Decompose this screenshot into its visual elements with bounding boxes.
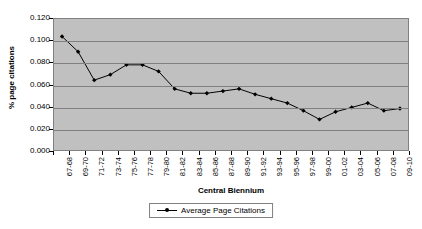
gridline (54, 130, 408, 131)
y-axis-tick-mark (49, 18, 53, 19)
legend-marker-icon (157, 207, 177, 215)
data-point-marker (382, 109, 386, 113)
x-axis-tick-mark (199, 151, 200, 155)
data-point-marker (301, 109, 305, 113)
x-axis-tick-mark (182, 151, 183, 155)
x-axis-tick-mark (360, 151, 361, 155)
y-axis-tick-mark (49, 129, 53, 130)
y-axis-tick-label: 0.120 (22, 14, 50, 22)
y-axis-tick-mark (49, 40, 53, 41)
chart-legend: Average Page Citations (149, 203, 273, 218)
y-axis-tick-mark (49, 62, 53, 63)
x-axis-tick-mark (328, 151, 329, 155)
data-point-marker (108, 73, 112, 77)
x-axis-tick-mark (53, 151, 54, 155)
y-axis-tick-labels: 0.0000.0200.0400.0600.0800.1000.120 (20, 0, 50, 155)
x-axis-tick-mark (69, 151, 70, 155)
x-axis-tick-mark (312, 151, 313, 155)
data-point-marker (92, 78, 96, 82)
data-point-marker (285, 101, 289, 105)
y-axis-tick-mark (49, 107, 53, 108)
data-point-marker (253, 92, 257, 96)
x-axis-tick-mark (215, 151, 216, 155)
y-axis-tick-label: 0.080 (22, 58, 50, 66)
x-axis-tick-mark (118, 151, 119, 155)
data-point-marker (333, 110, 337, 114)
gridline (54, 86, 408, 87)
x-axis-tick-mark (344, 151, 345, 155)
gridline (54, 41, 408, 42)
y-axis-tick-mark (49, 151, 53, 152)
y-axis-tick-label: 0.100 (22, 36, 50, 44)
data-point-marker (317, 117, 321, 121)
x-axis-tick-mark (393, 151, 394, 155)
x-axis-tick-mark (377, 151, 378, 155)
y-axis-tick-label: 0.020 (22, 125, 50, 133)
data-point-marker (221, 89, 225, 93)
x-axis-tick-mark (280, 151, 281, 155)
data-point-marker (189, 91, 193, 95)
plot-area (53, 18, 409, 151)
y-axis-tick-label: 0.000 (22, 147, 50, 155)
x-axis-tick-mark (231, 151, 232, 155)
x-axis-tick-mark (134, 151, 135, 155)
gridline (54, 63, 408, 64)
legend-entry-label: Average Page Citations (181, 206, 265, 215)
x-axis-tick-mark (247, 151, 248, 155)
x-axis-tick-mark (409, 151, 410, 155)
x-axis-tick-mark (166, 151, 167, 155)
y-axis-title: % page citations (2, 0, 22, 155)
data-point-marker (269, 97, 273, 101)
x-axis-tick-mark (263, 151, 264, 155)
x-axis-tick-mark (85, 151, 86, 155)
x-axis-tick-mark (296, 151, 297, 155)
x-axis-title: Central Biennium (53, 186, 409, 195)
data-point-marker (366, 101, 370, 105)
data-point-marker (237, 87, 241, 91)
y-axis-tick-mark (49, 85, 53, 86)
y-axis-tick-label: 0.060 (22, 81, 50, 89)
x-axis-tick-mark (150, 151, 151, 155)
line-chart: % page citations 0.0000.0200.0400.0600.0… (0, 0, 422, 229)
y-axis-tick-label: 0.040 (22, 103, 50, 111)
x-axis-tick-mark (102, 151, 103, 155)
y-axis-title-text: % page citations (8, 46, 17, 109)
data-point-marker (205, 91, 209, 95)
gridline (54, 108, 408, 109)
